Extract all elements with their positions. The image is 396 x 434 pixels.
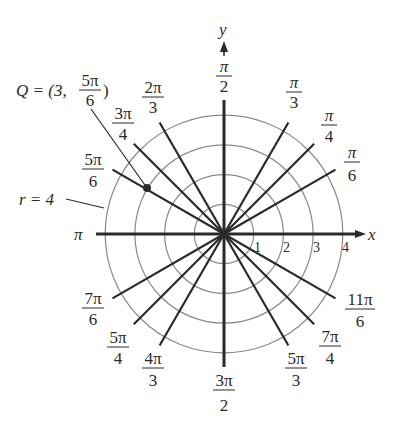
angle-label-4pi-over-3: 4π 3 xyxy=(142,349,164,390)
origin-dot xyxy=(221,231,228,238)
angle-label-pi-over-6: π 6 xyxy=(344,143,360,185)
svg-text:5π: 5π xyxy=(287,349,305,368)
ring-label-2: 2 xyxy=(283,240,290,255)
svg-text:3: 3 xyxy=(149,371,158,390)
ring-label-3: 3 xyxy=(313,240,320,255)
svg-text:4π: 4π xyxy=(144,349,162,368)
svg-text:5π: 5π xyxy=(109,328,127,347)
angle-label-7pi-over-4: 7π 4 xyxy=(319,327,341,368)
angle-label-5pi-over-3: 5π 3 xyxy=(285,349,307,390)
svg-text:3: 3 xyxy=(149,98,158,117)
polar-grid-diagram: x y π 1 2 3 4 π 2 π 3 π 4 π 6 2π 3 3π xyxy=(0,0,396,434)
svg-text:5π: 5π xyxy=(84,150,102,169)
svg-text:5π: 5π xyxy=(81,71,99,90)
svg-text:2: 2 xyxy=(220,396,229,415)
angle-label-pi-over-2: π 2 xyxy=(216,57,232,96)
ring-labels: 1 2 3 4 xyxy=(254,240,349,255)
svg-text:7π: 7π xyxy=(321,327,339,346)
svg-text:Q = (3,: Q = (3, xyxy=(16,81,67,100)
angle-label-pi: π xyxy=(74,225,83,244)
angle-label-5pi-over-6: 5π 6 xyxy=(82,150,104,191)
svg-text:4: 4 xyxy=(326,349,335,368)
r4-callout-label: r = 4 xyxy=(19,190,55,209)
x-axis-label: x xyxy=(367,225,376,244)
svg-text:6: 6 xyxy=(89,310,98,329)
svg-text:π: π xyxy=(220,57,229,76)
y-axis-label: y xyxy=(217,20,227,39)
svg-text:6: 6 xyxy=(89,172,98,191)
r4-leader-line xyxy=(66,199,104,208)
svg-text:7π: 7π xyxy=(84,289,102,308)
svg-text:4: 4 xyxy=(325,127,334,146)
svg-text:6: 6 xyxy=(86,91,95,110)
svg-text:π: π xyxy=(348,143,357,162)
svg-text:2π: 2π xyxy=(144,78,162,97)
angle-label-11pi-over-6: 11π 6 xyxy=(345,290,375,331)
svg-text:6: 6 xyxy=(356,312,365,331)
angle-label-pi-over-3: π 3 xyxy=(286,73,302,112)
angle-label-5pi-over-4: 5π 4 xyxy=(107,328,129,368)
angle-label-3pi-over-2: 3π 2 xyxy=(213,371,235,415)
point-q-label: Q = (3, 5π 6 ) xyxy=(16,71,109,110)
svg-text:11π: 11π xyxy=(348,290,373,309)
svg-text:4: 4 xyxy=(119,125,128,144)
angle-label-7pi-over-6: 7π 6 xyxy=(82,289,104,329)
svg-text:3π: 3π xyxy=(114,104,132,123)
svg-text:4: 4 xyxy=(114,349,123,368)
svg-text:π: π xyxy=(290,73,299,92)
ring-label-1: 1 xyxy=(254,240,261,255)
svg-text:3: 3 xyxy=(292,371,301,390)
svg-text:3π: 3π xyxy=(215,371,233,390)
angle-label-3pi-over-4: 3π 4 xyxy=(112,104,134,144)
svg-text:6: 6 xyxy=(348,166,357,185)
svg-text:3: 3 xyxy=(290,93,299,112)
ring-label-4: 4 xyxy=(342,240,349,255)
x-axis-arrow-icon xyxy=(355,230,366,238)
svg-text:π: π xyxy=(325,106,334,125)
svg-text:): ) xyxy=(103,81,109,100)
angle-label-pi-over-4: π 4 xyxy=(321,106,337,146)
angle-label-2pi-over-3: 2π 3 xyxy=(142,78,164,117)
svg-text:2: 2 xyxy=(220,77,229,96)
